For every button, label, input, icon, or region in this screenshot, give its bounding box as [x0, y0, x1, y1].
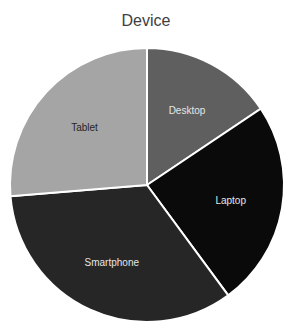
pie-chart [0, 0, 292, 335]
slice-label-tablet: Tablet [71, 122, 98, 133]
slice-label-smartphone: Smartphone [85, 257, 139, 268]
slice-label-desktop: Desktop [169, 105, 206, 116]
slice-label-laptop: Laptop [215, 194, 246, 205]
